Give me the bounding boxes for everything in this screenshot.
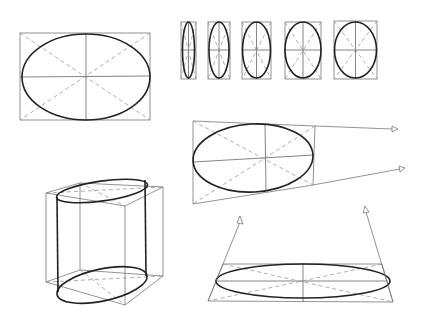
arrowhead-icon bbox=[399, 166, 405, 172]
arrowhead-icon bbox=[392, 126, 398, 132]
cylinder-figure bbox=[46, 175, 163, 311]
ellipse-medium bbox=[242, 22, 271, 79]
perspective-ellipse-figure bbox=[191, 121, 405, 204]
arrowhead-icon bbox=[237, 216, 243, 224]
flat-ellipse-figure bbox=[208, 206, 393, 302]
front-ellipse-figure bbox=[20, 33, 150, 120]
arrowhead-icon bbox=[363, 206, 369, 213]
ellipse-narrowest bbox=[181, 22, 196, 79]
ellipse-wide bbox=[285, 22, 321, 79]
proportion-series-figure bbox=[181, 21, 377, 79]
ellipse-narrow bbox=[208, 22, 230, 79]
ellipse-sketch-canvas bbox=[0, 0, 428, 320]
ellipse-widest bbox=[334, 21, 377, 79]
